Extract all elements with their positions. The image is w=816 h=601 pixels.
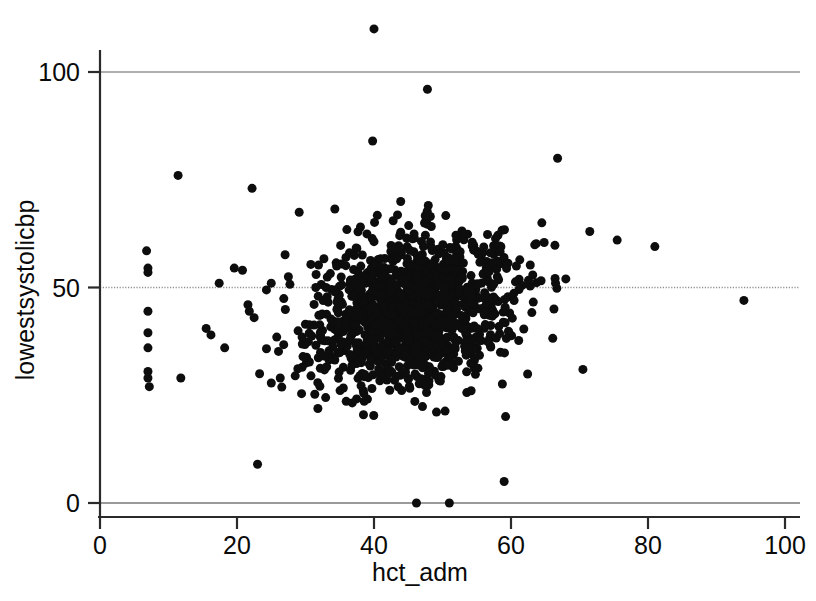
data-point: [359, 389, 368, 398]
data-point: [527, 308, 536, 317]
data-point: [313, 378, 322, 387]
data-point: [504, 327, 513, 336]
data-point: [412, 499, 421, 508]
data-point: [561, 274, 570, 283]
data-point: [321, 393, 330, 402]
data-point: [537, 276, 546, 285]
data-point: [397, 290, 406, 299]
data-point: [438, 240, 447, 249]
data-point: [466, 359, 475, 368]
data-point: [284, 272, 293, 281]
data-point: [443, 360, 452, 369]
data-point: [305, 357, 314, 366]
data-point: [553, 154, 562, 163]
data-point: [176, 374, 185, 383]
data-point: [396, 197, 405, 206]
x-tick-label: 40: [360, 531, 388, 559]
data-point: [388, 246, 397, 255]
data-point: [420, 380, 429, 389]
data-point: [297, 389, 306, 398]
data-point: [370, 319, 379, 328]
data-point: [500, 295, 509, 304]
data-point: [405, 384, 414, 393]
data-point: [378, 343, 387, 352]
data-point: [388, 303, 397, 312]
data-point: [445, 499, 454, 508]
data-point: [515, 285, 524, 294]
data-point: [418, 318, 427, 327]
data-point: [376, 356, 385, 365]
data-point: [358, 250, 367, 259]
data-point: [550, 241, 559, 250]
data-point: [493, 231, 502, 240]
x-tick-label: 80: [634, 531, 662, 559]
data-point: [363, 337, 372, 346]
data-point: [357, 381, 366, 390]
data-point: [473, 324, 482, 333]
data-point: [230, 264, 239, 273]
data-point: [526, 261, 535, 270]
data-point: [428, 244, 437, 253]
data-point: [650, 242, 659, 251]
data-point: [432, 353, 441, 362]
data-point: [315, 320, 324, 329]
data-point: [367, 275, 376, 284]
data-point: [341, 261, 350, 270]
data-point: [466, 271, 475, 280]
data-point: [540, 238, 549, 247]
data-point: [279, 294, 288, 303]
data-point: [370, 24, 379, 33]
data-point: [295, 208, 304, 217]
data-point: [468, 238, 477, 247]
data-point: [401, 368, 410, 377]
data-point: [468, 299, 477, 308]
data-point: [423, 266, 432, 275]
data-point: [333, 298, 342, 307]
data-point: [277, 383, 286, 392]
data-point: [474, 250, 483, 259]
data-point: [481, 320, 490, 329]
data-point: [410, 318, 419, 327]
data-point: [143, 343, 152, 352]
data-point: [372, 309, 381, 318]
data-point: [336, 340, 345, 349]
data-point: [529, 298, 538, 307]
data-point: [367, 384, 376, 393]
data-point: [424, 369, 433, 378]
y-tick-label: 100: [38, 58, 80, 86]
data-point: [441, 407, 450, 416]
data-point: [549, 305, 558, 314]
data-point: [458, 274, 467, 283]
data-point: [319, 254, 328, 263]
data-point: [431, 320, 440, 329]
data-point: [359, 297, 368, 306]
data-point: [298, 333, 307, 342]
data-point: [206, 330, 215, 339]
data-point: [354, 338, 363, 347]
data-point: [548, 334, 557, 343]
data-point: [410, 397, 419, 406]
data-point: [501, 318, 510, 327]
data-point: [342, 315, 351, 324]
data-point: [142, 246, 151, 255]
data-point: [514, 336, 523, 345]
data-point: [332, 262, 341, 271]
data-point: [551, 279, 560, 288]
data-point: [238, 266, 247, 275]
data-point: [336, 386, 345, 395]
data-point: [510, 296, 519, 305]
data-point: [314, 311, 323, 320]
data-point: [334, 374, 343, 383]
data-point: [477, 336, 486, 345]
data-point: [404, 221, 413, 230]
data-point: [143, 374, 152, 383]
data-point: [215, 279, 224, 288]
data-point: [462, 367, 471, 376]
y-tick-label: 50: [52, 274, 80, 302]
data-point: [313, 404, 322, 413]
data-point: [394, 382, 403, 391]
data-point: [281, 305, 290, 314]
data-point: [439, 298, 448, 307]
data-point: [739, 296, 748, 305]
data-point: [267, 279, 276, 288]
